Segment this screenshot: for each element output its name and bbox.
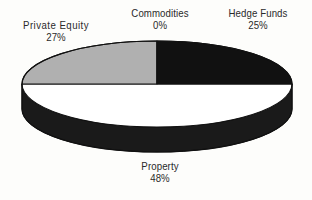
pie-label-commodities-name: Commodities — [131, 7, 188, 19]
pie-label-hedge-funds-name: Hedge Funds — [228, 7, 287, 19]
pie-chart: Private Equity 27% Commodities 0% Hedge … — [0, 0, 312, 200]
pie-slice-top-private-equity — [22, 41, 157, 84]
pie-label-commodities-value: 0% — [110, 19, 209, 31]
pie-slice-top-hedge-funds — [157, 41, 292, 84]
pie-label-private-equity: Private Equity 27% — [4, 19, 107, 43]
pie-label-private-equity-name: Private Equity — [23, 19, 89, 31]
pie-label-hedge-funds: Hedge Funds 25% — [210, 7, 306, 31]
pie-label-hedge-funds-value: 25% — [210, 19, 306, 31]
pie-label-property-value: 48% — [108, 172, 211, 184]
pie-label-property-name: Property — [141, 160, 178, 172]
pie-label-commodities: Commodities 0% — [110, 7, 209, 31]
pie-label-private-equity-value: 27% — [4, 31, 107, 43]
pie-label-property: Property 48% — [108, 160, 211, 184]
